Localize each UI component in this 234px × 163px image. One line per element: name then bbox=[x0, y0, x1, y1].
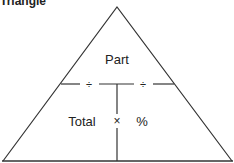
triangle-diagram: Part Total % ÷ ÷ × bbox=[0, 0, 234, 163]
multiply-sign: × bbox=[113, 114, 120, 128]
divide-sign-left: ÷ bbox=[86, 78, 92, 90]
divide-sign-right: ÷ bbox=[140, 78, 146, 90]
label-total: Total bbox=[68, 114, 96, 129]
label-percent: % bbox=[136, 114, 148, 129]
label-part: Part bbox=[105, 52, 129, 67]
